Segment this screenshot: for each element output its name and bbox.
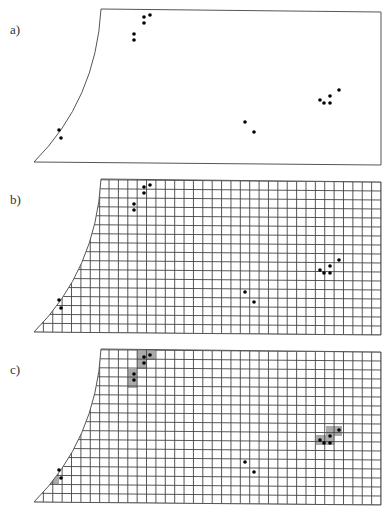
panel-c: c) [0, 340, 386, 510]
panel-b: b) [0, 170, 386, 340]
panel-a: a) [0, 0, 386, 170]
panel-b-diagram [0, 170, 386, 340]
panel-c-diagram [0, 340, 386, 511]
panel-a-diagram [0, 0, 386, 170]
